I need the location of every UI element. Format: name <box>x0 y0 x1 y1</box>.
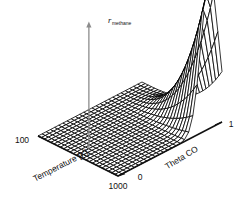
temperature-axis-title: Temperature [K] <box>31 147 89 183</box>
temperature-max-tick-label: 1000 <box>109 181 128 191</box>
rate-axis-title: rmethane <box>108 15 132 26</box>
rate-axis-title-subscript: methane <box>112 20 132 26</box>
temperature-min-tick-label: 100 <box>15 135 29 145</box>
thetaco-min-tick-label: 0 <box>138 172 143 182</box>
thetaco-max-tick-label: 1 <box>229 119 234 129</box>
rate-axis-arrow-icon <box>86 22 91 28</box>
surface-plot-figure: 100 1000 0 1 Temperature [K] Theta CO rm… <box>0 0 242 201</box>
surface-plot-svg: 100 1000 0 1 Temperature [K] Theta CO rm… <box>0 0 242 201</box>
